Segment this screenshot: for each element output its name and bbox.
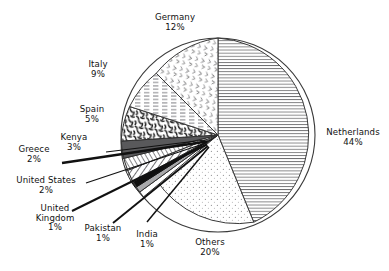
label-netherlands: Netherlands 44%: [318, 128, 388, 148]
label-united-states-percent: 2%: [4, 186, 88, 196]
label-india: India 1%: [128, 230, 166, 250]
pie-slices: [121, 38, 315, 232]
label-italy: Italy 9%: [75, 60, 121, 80]
label-pakistan-percent: 1%: [78, 234, 128, 244]
label-others-percent: 20%: [185, 248, 235, 258]
label-germany-percent: 12%: [140, 23, 210, 33]
label-pakistan: Pakistan 1%: [78, 224, 128, 244]
label-spain-percent: 5%: [68, 115, 116, 125]
pie-chart: Germany 12% Italy 9% Spain 5% Kenya 3% G…: [0, 0, 389, 271]
label-greece-percent: 2%: [8, 155, 60, 165]
label-others: Others 20%: [185, 238, 235, 258]
label-greece: Greece 2%: [8, 145, 60, 165]
label-united-states: United States 2%: [4, 176, 88, 196]
label-netherlands-percent: 44%: [318, 138, 388, 148]
label-spain: Spain 5%: [68, 105, 116, 125]
label-germany: Germany 12%: [140, 13, 210, 33]
label-italy-percent: 9%: [75, 70, 121, 80]
label-india-percent: 1%: [128, 240, 166, 250]
